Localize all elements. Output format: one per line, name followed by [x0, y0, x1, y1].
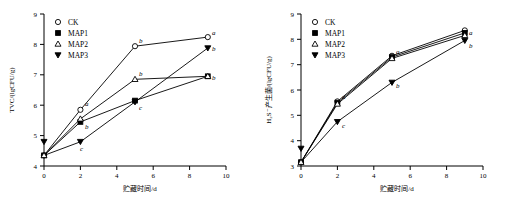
- legend-marker-map2-right: [312, 41, 318, 46]
- chart-panel-left: 4 5 6 7 8 9 0 2 4 6 8 10: [0, 0, 256, 201]
- right-xtick-2: 4: [372, 172, 376, 180]
- left-ann-6: a: [212, 29, 216, 37]
- left-ann-8: b: [212, 74, 216, 82]
- right-ann-0: a: [342, 93, 346, 101]
- legend-label-map2-right: MAP2: [325, 40, 345, 49]
- chart-panel-right: 3 4 5 6 7 8 9 0 2 4 6 8 10: [257, 0, 513, 201]
- right-ytick-1: 4: [291, 137, 295, 145]
- left-markers-ck: [41, 35, 210, 158]
- legend-label-map1: MAP1: [68, 29, 88, 38]
- right-ann-2: a: [396, 48, 400, 56]
- right-ytick-5: 8: [291, 36, 295, 44]
- right-y-axis-label: H₂S⁻产生菌/(lgCFU/g): [264, 56, 273, 124]
- left-legend: CK MAP1 MAP2 MAP3: [55, 18, 88, 60]
- legend-marker-ck-right: [312, 19, 317, 24]
- left-ann-1: b: [85, 123, 89, 131]
- right-ytick-3: 6: [291, 87, 295, 95]
- left-ytick-4: 8: [34, 41, 38, 49]
- legend-marker-ck: [55, 19, 60, 24]
- right-ytick-2: 5: [291, 112, 295, 120]
- right-xtick-5: 10: [480, 172, 488, 180]
- legend-marker-map2: [55, 41, 61, 46]
- left-ytick-3: 7: [34, 71, 38, 79]
- left-ann-7: b: [212, 45, 216, 53]
- left-ytick-2: 6: [34, 102, 38, 110]
- legend-label-map1-right: MAP1: [325, 29, 345, 38]
- right-xtick-0: 0: [299, 172, 303, 180]
- right-ytick-0: 3: [291, 163, 295, 171]
- legend-marker-map3-right: [312, 53, 318, 58]
- right-ann-5: b: [469, 42, 473, 50]
- right-ytick-4: 7: [291, 61, 295, 69]
- left-y-axis-label: TVC/(lgCFU/g): [8, 67, 16, 113]
- legend-marker-map1: [56, 31, 61, 36]
- left-series-map3-line: [44, 48, 208, 155]
- right-xtick-1: 2: [336, 172, 340, 180]
- right-point-annotations: a c a b a b: [342, 29, 473, 130]
- legend-marker-map1-right: [313, 31, 318, 36]
- left-ann-0: a: [85, 100, 89, 108]
- right-ann-1: c: [342, 122, 346, 130]
- right-ann-4: a: [469, 29, 473, 37]
- right-ytick-6: 9: [291, 11, 295, 19]
- left-xtick-0: 0: [42, 172, 46, 180]
- right-markers-ck: [298, 28, 467, 165]
- left-y-ticks: 4 5 6 7 8 9: [34, 11, 45, 171]
- left-series-map1-line: [44, 76, 208, 155]
- left-xtick-3: 6: [151, 172, 155, 180]
- legend-label-map3-right: MAP3: [325, 51, 345, 60]
- right-xtick-3: 6: [408, 172, 412, 180]
- left-ytick-5: 9: [34, 11, 38, 19]
- left-ann-4: b: [139, 70, 143, 78]
- figure-container: 4 5 6 7 8 9 0 2 4 6 8 10: [0, 0, 513, 201]
- right-ann-3: b: [396, 82, 400, 90]
- left-ann-3: b: [139, 37, 143, 45]
- left-xtick-4: 8: [188, 172, 192, 180]
- left-xtick-2: 4: [115, 172, 119, 180]
- right-x-ticks: 0 2 4 6 8 10: [299, 166, 487, 180]
- left-point-annotations: a b c b b c a b b: [80, 29, 216, 153]
- left-ann-2: c: [80, 145, 84, 153]
- right-markers-map1: [299, 31, 468, 165]
- left-ytick-1: 5: [34, 132, 38, 140]
- right-chart-svg: 3 4 5 6 7 8 9 0 2 4 6 8 10: [257, 0, 513, 201]
- legend-label-map3: MAP3: [68, 51, 88, 60]
- legend-marker-map3: [55, 53, 61, 58]
- right-xtick-4: 8: [445, 172, 449, 180]
- left-x-ticks: 0 2 4 6 8 10: [42, 166, 230, 180]
- left-markers-map3: [41, 46, 211, 145]
- legend-label-map2: MAP2: [68, 40, 88, 49]
- legend-label-ck: CK: [68, 18, 79, 27]
- left-ann-5: c: [139, 104, 143, 112]
- left-series-map2-line: [44, 76, 208, 155]
- left-ytick-0: 4: [34, 163, 38, 171]
- left-xtick-5: 10: [223, 172, 231, 180]
- left-xtick-1: 2: [79, 172, 83, 180]
- right-x-axis-label: 贮藏时间/d: [380, 184, 414, 193]
- right-legend: CK MAP1 MAP2 MAP3: [312, 18, 345, 60]
- left-markers-map1: [42, 74, 211, 158]
- left-x-axis-label: 贮藏时间/d: [123, 184, 157, 193]
- legend-label-ck-right: CK: [325, 18, 336, 27]
- right-markers-map2: [298, 32, 468, 164]
- right-markers-map3: [298, 38, 468, 151]
- left-chart-svg: 4 5 6 7 8 9 0 2 4 6 8 10: [0, 0, 256, 201]
